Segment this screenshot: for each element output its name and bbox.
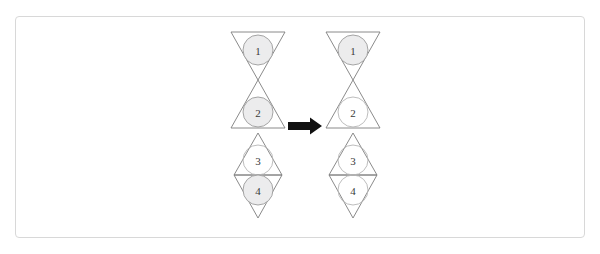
circle-unit-4: 4 [243,175,273,205]
circle-label-4: 4 [255,185,261,197]
circle-label-3: 3 [255,155,261,167]
circle-label-1: 1 [350,45,356,57]
circle-label-1: 1 [255,45,261,57]
circle-unit-3: 3 [338,145,368,175]
transformation-arrow [288,118,322,135]
circle-unit-1: 1 [243,35,273,65]
diagram-svg: 1234 1234 [0,0,600,254]
arrow-right-icon [288,118,322,135]
circle-unit-2: 2 [243,97,273,127]
circle-label-4: 4 [350,185,356,197]
circle-label-3: 3 [350,155,356,167]
circle-label-2: 2 [255,107,261,119]
circle-unit-1: 1 [338,35,368,65]
diagram-canvas: 1234 1234 [0,0,600,254]
circle-unit-3: 3 [243,145,273,175]
circle-label-2: 2 [350,107,356,119]
circle-unit-2: 2 [338,97,368,127]
source-figure: 1234 [231,32,285,218]
target-figure: 1234 [326,32,380,218]
circle-unit-4: 4 [338,175,368,205]
